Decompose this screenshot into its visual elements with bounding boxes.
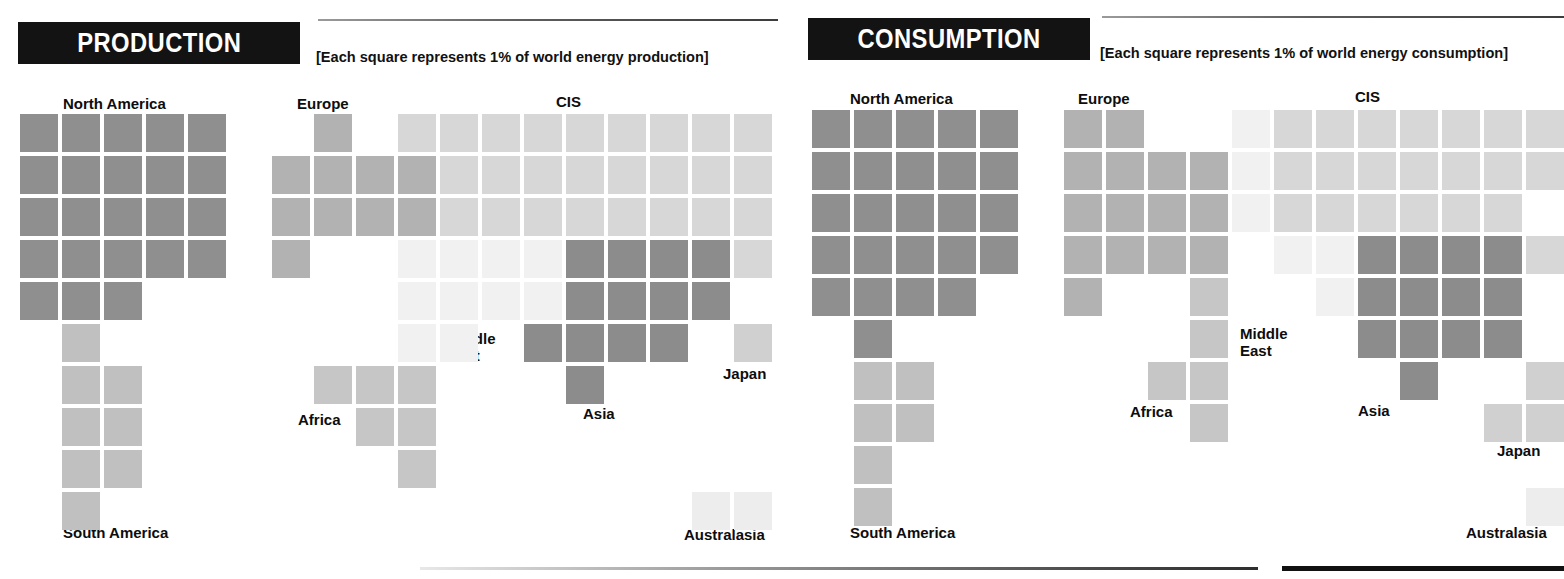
waffle-cell xyxy=(980,152,1018,190)
waffle-cell xyxy=(734,198,772,236)
waffle-cell xyxy=(1442,110,1480,148)
waffle-cell xyxy=(1316,152,1354,190)
waffle-cell xyxy=(1274,152,1312,190)
waffle-cell xyxy=(62,240,100,278)
production-label-cis: CIS xyxy=(556,93,581,110)
bottom-rule-right xyxy=(1282,566,1564,571)
waffle-cell xyxy=(938,194,976,232)
waffle-cell xyxy=(272,156,310,194)
waffle-cell xyxy=(1232,194,1270,232)
waffle-cell xyxy=(1064,194,1102,232)
waffle-cell xyxy=(1400,110,1438,148)
production-label-north-america: North America xyxy=(63,95,166,112)
waffle-cell xyxy=(896,404,934,442)
waffle-cell xyxy=(1484,404,1522,442)
waffle-cell xyxy=(188,114,226,152)
waffle-cell xyxy=(1190,404,1228,442)
waffle-cell xyxy=(650,114,688,152)
waffle-cell xyxy=(314,198,352,236)
waffle-cell xyxy=(896,362,934,400)
waffle-cell xyxy=(1442,320,1480,358)
bottom-rule-left xyxy=(420,567,1258,570)
consumption-label-australasia: Australasia xyxy=(1466,524,1547,541)
production-label-europe: Europe xyxy=(297,95,349,112)
waffle-cell xyxy=(734,492,772,530)
waffle-cell xyxy=(608,156,646,194)
waffle-cell xyxy=(980,110,1018,148)
waffle-cell xyxy=(104,450,142,488)
waffle-cell xyxy=(104,156,142,194)
waffle-cell xyxy=(692,114,730,152)
waffle-cell xyxy=(608,282,646,320)
waffle-cell xyxy=(734,114,772,152)
waffle-cell xyxy=(812,236,850,274)
waffle-cell xyxy=(398,156,436,194)
waffle-cell xyxy=(566,324,604,362)
waffle-cell xyxy=(1526,404,1564,442)
waffle-cell xyxy=(692,492,730,530)
waffle-cell xyxy=(356,156,394,194)
waffle-cell xyxy=(524,324,562,362)
waffle-cell xyxy=(1106,236,1144,274)
waffle-cell xyxy=(1484,236,1522,274)
waffle-cell xyxy=(896,194,934,232)
waffle-cell xyxy=(650,282,688,320)
waffle-cell xyxy=(812,278,850,316)
waffle-cell xyxy=(854,488,892,526)
waffle-cell xyxy=(980,236,1018,274)
waffle-cell xyxy=(1442,236,1480,274)
waffle-cell xyxy=(524,156,562,194)
waffle-cell xyxy=(1358,320,1396,358)
waffle-cell xyxy=(314,114,352,152)
waffle-cell xyxy=(1190,278,1228,316)
waffle-cell xyxy=(20,114,58,152)
waffle-cell xyxy=(440,324,478,362)
production-header-rule xyxy=(318,19,778,21)
waffle-cell xyxy=(398,450,436,488)
waffle-cell xyxy=(398,366,436,404)
waffle-cell xyxy=(1190,320,1228,358)
waffle-cell xyxy=(896,152,934,190)
waffle-cell xyxy=(398,114,436,152)
waffle-cell xyxy=(1274,236,1312,274)
waffle-cell xyxy=(1190,152,1228,190)
waffle-cell xyxy=(938,110,976,148)
waffle-cell xyxy=(440,114,478,152)
waffle-cell xyxy=(1400,194,1438,232)
waffle-cell xyxy=(188,156,226,194)
waffle-cell xyxy=(524,240,562,278)
waffle-cell xyxy=(608,324,646,362)
waffle-cell xyxy=(440,198,478,236)
waffle-cell xyxy=(1232,110,1270,148)
waffle-cell xyxy=(440,156,478,194)
waffle-cell xyxy=(398,282,436,320)
waffle-cell xyxy=(608,114,646,152)
waffle-cell xyxy=(1316,110,1354,148)
waffle-cell xyxy=(692,156,730,194)
waffle-cell xyxy=(398,240,436,278)
waffle-cell xyxy=(938,152,976,190)
waffle-cell xyxy=(608,198,646,236)
production-panel: PRODUCTION [Each square represents 1% of… xyxy=(0,0,790,579)
waffle-cell xyxy=(1400,362,1438,400)
waffle-cell xyxy=(1400,278,1438,316)
waffle-cell xyxy=(1358,236,1396,274)
waffle-cell xyxy=(1400,320,1438,358)
waffle-cell xyxy=(692,198,730,236)
consumption-label-japan: Japan xyxy=(1497,442,1540,459)
waffle-cell xyxy=(146,156,184,194)
consumption-label-middle-east: Middle East xyxy=(1240,325,1288,359)
waffle-cell xyxy=(1400,236,1438,274)
waffle-cell xyxy=(62,114,100,152)
waffle-cell xyxy=(62,198,100,236)
waffle-cell xyxy=(980,194,1018,232)
waffle-cell xyxy=(854,362,892,400)
waffle-cell xyxy=(1484,278,1522,316)
production-label-asia: Asia xyxy=(583,405,615,422)
waffle-cell xyxy=(608,240,646,278)
waffle-cell xyxy=(272,198,310,236)
waffle-cell xyxy=(1274,194,1312,232)
waffle-cell xyxy=(1526,362,1564,400)
waffle-cell xyxy=(20,156,58,194)
consumption-caption: [Each square represents 1% of world ener… xyxy=(1100,44,1508,62)
